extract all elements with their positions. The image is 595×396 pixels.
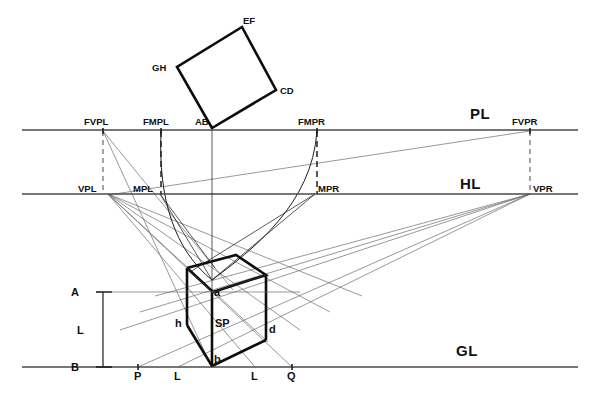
- label-MPR: MPR: [318, 183, 339, 194]
- diagram-canvas: PL HL GL FVPL FMPL AB FMPR FVPR VPL MPL …: [0, 0, 595, 396]
- cube-inner-edge: [187, 268, 212, 292]
- cube-top-face: [187, 255, 266, 292]
- measuring-point-lines: [160, 194, 315, 280]
- perspective-diagram: PL HL GL FVPL FMPL AB FMPR FVPR VPL MPL …: [0, 0, 595, 396]
- label-VPL: VPL: [78, 183, 97, 194]
- label-AB-pl: AB: [195, 116, 209, 127]
- label-cube-h: h: [175, 317, 182, 329]
- label-station-point-SP: SP: [215, 317, 230, 329]
- label-EF: EF: [243, 15, 255, 26]
- label-cube-a: a: [214, 286, 221, 298]
- cube-edge-bottom-left: [187, 325, 212, 366]
- vpr-ray: [140, 194, 530, 312]
- label-FVPL: FVPL: [84, 116, 108, 127]
- label-FMPR: FMPR: [298, 116, 325, 127]
- vpl-ray-bundle: [108, 194, 362, 367]
- vpl-ray: [108, 194, 362, 296]
- vpr-ray: [155, 194, 530, 296]
- label-GL-L-right: L: [251, 370, 258, 382]
- label-GL-P: P: [134, 370, 141, 382]
- label-GL: GL: [456, 342, 478, 359]
- label-GH: GH: [152, 62, 166, 73]
- label-GL-L-left: L: [174, 370, 181, 382]
- label-cube-b: b: [214, 353, 221, 365]
- label-PL: PL: [470, 105, 490, 122]
- label-VPR: VPR: [533, 183, 553, 194]
- label-FVPR: FVPR: [512, 116, 537, 127]
- label-dimension-B: B: [71, 361, 79, 373]
- vpl-ray: [108, 194, 300, 330]
- mpl-line: [160, 194, 215, 268]
- label-dimension-L: L: [77, 324, 84, 336]
- label-dimension-A: A: [71, 286, 79, 298]
- vpl-ray: [108, 194, 255, 367]
- mpr-line: [190, 194, 315, 272]
- label-GL-Q: Q: [287, 370, 296, 382]
- label-CD: CD: [280, 85, 294, 96]
- pl-tick-marks: [103, 128, 530, 134]
- label-MPL: MPL: [133, 183, 153, 194]
- label-cube-d: d: [269, 323, 276, 335]
- label-FMPL: FMPL: [143, 116, 169, 127]
- plan-square: [177, 27, 276, 128]
- fvpl-ray-2: [103, 131, 212, 368]
- label-HL: HL: [460, 175, 481, 192]
